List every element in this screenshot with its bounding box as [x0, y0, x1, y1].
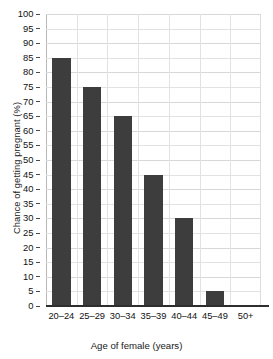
y-axis-tick: 55	[23, 139, 40, 151]
y-axis-tick-mark	[36, 116, 40, 117]
y-axis-tick: 20	[23, 242, 40, 254]
y-axis-tick-label: 100	[18, 8, 34, 20]
bar	[206, 291, 224, 306]
y-axis-tick: 45	[23, 169, 40, 181]
y-axis-tick-label: 70	[23, 96, 33, 108]
y-axis-tick: 35	[23, 198, 40, 210]
y-axis-tick-mark	[36, 174, 40, 175]
y-axis-tick-mark	[36, 28, 40, 29]
y-axis-tick-mark	[36, 101, 40, 102]
y-axis-tick: 50	[23, 154, 40, 166]
y-axis-tick-label: 25	[23, 227, 33, 239]
y-axis-tick-mark	[36, 276, 40, 277]
y-axis-tick-mark	[36, 233, 40, 234]
y-axis-tick: 100	[18, 8, 40, 20]
y-axis-tick-mark	[36, 87, 40, 88]
y-axis-tick-label: 30	[23, 212, 33, 224]
y-axis-tick-label: 95	[23, 23, 33, 35]
y-axis-tick: 65	[23, 110, 40, 122]
y-axis-tick-labels: 0510152025303540455055606570758085909510…	[14, 14, 40, 306]
y-axis-tick-mark	[36, 218, 40, 219]
y-axis-tick-label: 80	[23, 66, 33, 78]
y-axis-tick-label: 45	[23, 169, 33, 181]
y-axis-tick: 0	[28, 300, 40, 312]
y-axis-tick-label: 35	[23, 198, 33, 210]
y-axis-tick-mark	[36, 72, 40, 73]
bar	[175, 218, 193, 306]
y-axis-tick-mark	[36, 57, 40, 58]
bar-chart: Chance of getting pregnant (%) 051015202…	[0, 0, 273, 359]
y-axis-tick-label: 55	[23, 139, 33, 151]
y-axis-tick: 40	[23, 183, 40, 195]
y-axis-tick-label: 75	[23, 81, 33, 93]
y-axis-tick: 60	[23, 125, 40, 137]
y-axis-tick-label: 65	[23, 110, 33, 122]
y-axis-tick-label: 40	[23, 183, 33, 195]
y-axis-tick-label: 10	[23, 271, 33, 283]
y-axis-tick: 10	[23, 271, 40, 283]
y-axis-tick: 70	[23, 96, 40, 108]
bar	[52, 58, 70, 306]
y-axis-tick-mark	[36, 145, 40, 146]
y-axis-tick: 85	[23, 52, 40, 64]
y-axis-tick: 75	[23, 81, 40, 93]
chart-title-clipped	[0, 0, 273, 3]
y-axis-tick-label: 20	[23, 242, 33, 254]
y-axis-tick-mark	[36, 189, 40, 190]
bar	[114, 116, 132, 306]
y-axis-tick: 15	[23, 256, 40, 268]
x-axis-tick-label: 50+	[224, 309, 267, 323]
y-axis-tick-mark	[36, 130, 40, 131]
y-axis-tick-mark	[36, 43, 40, 44]
y-axis-tick-mark	[36, 262, 40, 263]
plot-area	[46, 14, 261, 306]
y-axis-tick: 30	[23, 212, 40, 224]
y-axis-tick-label: 15	[23, 256, 33, 268]
y-axis-tick: 80	[23, 66, 40, 78]
y-axis-tick-label: 50	[23, 154, 33, 166]
y-axis-tick: 95	[23, 23, 40, 35]
y-axis-tick-label: 0	[28, 300, 33, 312]
x-axis-tick-labels: 20–2425–2930–3435–3940–4445–4950+	[46, 309, 261, 325]
y-axis-tick-label: 90	[23, 37, 33, 49]
bars-layer	[46, 14, 261, 306]
y-axis-tick-mark	[36, 306, 40, 307]
y-axis-tick-mark	[36, 247, 40, 248]
y-axis-tick: 25	[23, 227, 40, 239]
y-axis-tick: 90	[23, 37, 40, 49]
x-axis-line	[46, 305, 269, 307]
y-axis-tick: 5	[28, 285, 40, 297]
bar	[83, 87, 101, 306]
y-axis-tick-mark	[36, 291, 40, 292]
y-axis-tick-mark	[36, 203, 40, 204]
bar	[144, 175, 162, 306]
y-axis-tick-mark	[36, 14, 40, 15]
y-axis-tick-label: 85	[23, 52, 33, 64]
x-axis-title: Age of female (years)	[0, 340, 273, 351]
y-axis-tick-label: 5	[28, 285, 33, 297]
y-axis-tick-mark	[36, 160, 40, 161]
y-axis-tick-label: 60	[23, 125, 33, 137]
